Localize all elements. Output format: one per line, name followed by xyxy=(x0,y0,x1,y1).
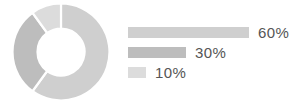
donut-chart-figure: 60% 30% 10% xyxy=(0,0,308,102)
legend-item-60[interactable]: 60% xyxy=(128,22,308,42)
legend-bar-30 xyxy=(128,47,186,58)
donut-chart xyxy=(12,3,110,101)
donut-chart-svg xyxy=(12,3,110,101)
legend-label-10: 10% xyxy=(155,65,186,80)
legend-item-30[interactable]: 30% xyxy=(128,42,308,62)
legend-item-10[interactable]: 10% xyxy=(128,62,308,82)
legend-bar-60 xyxy=(128,27,249,38)
legend-bar-10 xyxy=(128,67,146,78)
legend-label-60: 60% xyxy=(258,25,289,40)
legend-label-30: 30% xyxy=(195,45,226,60)
legend: 60% 30% 10% xyxy=(128,22,308,82)
